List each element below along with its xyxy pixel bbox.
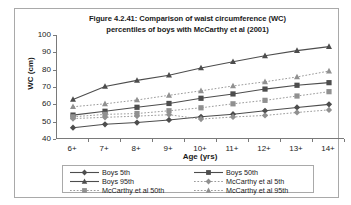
legend-item[interactable]: McCarthy et al 95th xyxy=(193,186,288,195)
figure-root: Figure 4.2.41: Comparison of waist circu… xyxy=(0,0,351,205)
x-axis-tick-mark xyxy=(280,139,281,142)
y-axis-tick-label: 50 xyxy=(25,118,51,126)
legend-marker-triangle-icon xyxy=(69,177,100,186)
data-point xyxy=(134,105,139,110)
data-point xyxy=(262,112,268,118)
chart-frame: Figure 4.2.41: Comparison of waist circu… xyxy=(14,8,339,198)
data-point xyxy=(70,125,76,131)
data-point xyxy=(166,108,171,113)
y-axis-tick-label: 90 xyxy=(25,48,51,56)
x-axis-title: Age (yrs) xyxy=(56,152,344,161)
data-point xyxy=(326,68,332,74)
chart-title-line-1: Figure 4.2.41: Comparison of waist circu… xyxy=(45,14,330,25)
data-point xyxy=(198,88,204,94)
data-point xyxy=(70,114,75,119)
legend-label: Boys 50th xyxy=(224,168,258,177)
y-axis-tick-label: 70 xyxy=(25,83,51,91)
y-axis-tick-label: 60 xyxy=(25,100,51,108)
data-point xyxy=(294,109,300,115)
legend-marker-square-icon xyxy=(193,168,224,177)
data-point xyxy=(230,91,235,96)
data-point xyxy=(230,101,235,106)
data-point xyxy=(326,43,332,49)
data-point xyxy=(262,98,267,103)
data-point xyxy=(102,112,107,117)
legend-label: McCarthy et al 5th xyxy=(224,177,284,186)
legend-item[interactable]: Boys 50th xyxy=(193,168,258,177)
x-axis-tick-mark xyxy=(120,139,121,142)
data-point xyxy=(134,119,140,125)
y-axis-tick-mark xyxy=(53,139,56,140)
plot-area xyxy=(56,35,344,139)
data-point xyxy=(134,97,140,103)
legend-marker-triangle-icon xyxy=(193,186,224,195)
series-mccarthy-et-al-95th xyxy=(70,68,332,109)
data-point xyxy=(294,83,299,88)
data-point xyxy=(70,104,76,110)
legend-label: McCarthy et al 95th xyxy=(224,186,288,195)
data-point xyxy=(198,96,203,101)
x-axis-tick-mark xyxy=(184,139,185,142)
data-point xyxy=(198,105,203,110)
legend-label: McCarthy et al 50th xyxy=(100,186,164,195)
legend-label: Boys 95th xyxy=(100,177,134,186)
legend-item[interactable]: McCarthy et al 50th xyxy=(69,186,164,195)
legend-label: Boys 5th xyxy=(100,168,130,177)
data-point xyxy=(326,80,331,85)
x-axis-tick-mark xyxy=(248,139,249,142)
data-point xyxy=(326,89,331,94)
chart-title-line-2: percentiles of boys with McCarthy et al … xyxy=(45,25,330,36)
y-axis-tick-label: 40 xyxy=(25,135,51,143)
data-point xyxy=(134,111,139,116)
legend-marker-diamond-icon xyxy=(69,168,100,177)
x-axis-tick-mark xyxy=(344,139,345,142)
y-axis-tick-label: 100 xyxy=(25,31,51,39)
data-point xyxy=(326,107,332,113)
data-point xyxy=(294,93,299,98)
data-point xyxy=(326,101,332,107)
data-point xyxy=(262,86,267,91)
legend-marker-square-icon xyxy=(69,186,100,195)
x-axis-tick-mark xyxy=(88,139,89,142)
legend-item[interactable]: Boys 95th xyxy=(69,177,134,186)
chart-legend: Boys 5thBoys 95thMcCarthy et al 50thBoys… xyxy=(62,165,314,193)
data-point xyxy=(262,79,268,85)
chart-title: Figure 4.2.41: Comparison of waist circu… xyxy=(45,14,330,35)
legend-item[interactable]: McCarthy et al 5th xyxy=(193,177,284,186)
legend-marker-diamond-icon xyxy=(193,177,224,186)
y-axis-tick-label: 80 xyxy=(25,66,51,74)
x-axis-tick-mark xyxy=(312,139,313,142)
plot-svg xyxy=(57,35,345,139)
data-point xyxy=(166,101,171,106)
legend-item[interactable]: Boys 5th xyxy=(69,168,130,177)
data-point xyxy=(102,121,108,127)
x-axis-tick-mark xyxy=(216,139,217,142)
x-axis-tick-mark xyxy=(152,139,153,142)
